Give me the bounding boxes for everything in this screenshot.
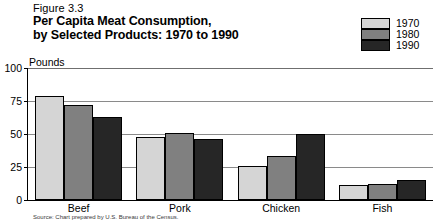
bar-pork-1980	[165, 133, 194, 200]
y-axis-tick-label: 25	[10, 162, 22, 173]
x-axis-category-label: Pork	[136, 202, 223, 214]
source-note: Source: Chart prepared by U.S. Bureau of…	[33, 214, 178, 221]
y-axis-tick	[24, 200, 28, 201]
bar-group: Pork	[136, 68, 223, 200]
bar-chicken-1980	[267, 156, 296, 200]
bar-beef-1990	[93, 117, 122, 200]
legend-item: 1990	[361, 40, 433, 51]
legend-swatch-1970	[361, 18, 390, 29]
bar-groups: BeefPorkChickenFish	[28, 68, 433, 200]
legend-label-1990: 1990	[396, 39, 419, 51]
bar-group: Beef	[35, 68, 122, 200]
bar-chicken-1990	[296, 134, 325, 200]
figure-container: Figure 3.3 Per Capita Meat Consumption, …	[0, 0, 435, 223]
figure-title-line-2: by Selected Products: 1970 to 1990	[33, 28, 239, 42]
y-axis-tick-label: 75	[10, 96, 22, 107]
y-axis-tick-label: 0	[16, 195, 22, 206]
bar-group: Fish	[339, 68, 426, 200]
bar-fish-1970	[339, 185, 368, 200]
y-axis-tick-label: 100	[4, 63, 22, 74]
bar-beef-1980	[64, 105, 93, 200]
bar-beef-1970	[35, 96, 64, 200]
bar-fish-1980	[368, 184, 397, 200]
figure-title-line-1: Per Capita Meat Consumption,	[33, 14, 211, 28]
x-axis-category-label: Beef	[35, 202, 122, 214]
bar-pork-1970	[136, 137, 165, 200]
bar-pork-1990	[194, 139, 223, 200]
figure-number: Figure 3.3	[33, 2, 84, 14]
x-axis-category-label: Chicken	[238, 202, 325, 214]
chart-legend: 1970 1980 1990	[361, 18, 433, 51]
plot-area: 0255075100 BeefPorkChickenFish	[27, 68, 433, 201]
y-axis-unit-label: Pounds	[29, 56, 65, 68]
x-axis-category-label: Fish	[339, 202, 426, 214]
legend-swatch-1990	[361, 40, 390, 51]
y-axis-tick-label: 50	[10, 129, 22, 140]
bar-group: Chicken	[238, 68, 325, 200]
bar-chicken-1970	[238, 166, 267, 200]
bar-fish-1990	[397, 180, 426, 200]
legend-swatch-1980	[361, 29, 390, 40]
